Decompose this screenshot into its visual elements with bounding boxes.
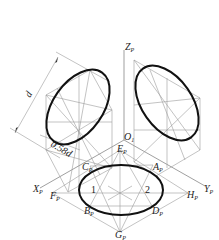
left-plane-construction: [46, 70, 112, 192]
label-e: EP: [116, 143, 127, 155]
label-f: FP: [49, 190, 60, 202]
label-z-axis: ZP: [125, 41, 135, 53]
label-dimension-d: d: [22, 88, 35, 99]
label-h: HP: [186, 189, 198, 201]
y-axis: [124, 140, 205, 186]
label-dimension-058d: 0.58d: [49, 138, 75, 159]
label-b: BP: [84, 205, 94, 217]
left-ellipse: [33, 58, 122, 155]
label-origin: O1: [124, 131, 134, 143]
label-d: DP: [151, 205, 163, 217]
right-plane-construction: [134, 60, 200, 176]
label-c: CP: [82, 161, 93, 173]
label-g: GP: [115, 229, 126, 240]
label-center-2: 2: [145, 184, 150, 195]
axes: [40, 50, 205, 188]
bottom-plane-construction: [52, 150, 188, 232]
label-x-axis: XP: [32, 183, 43, 195]
isometric-diagram: ZP XP YP O1 EP CP AP FP HP BP DP GP 1 2 …: [0, 0, 219, 240]
label-center-1: 1: [91, 184, 96, 195]
label-y-axis: YP: [204, 183, 214, 195]
label-a: AP: [152, 161, 163, 173]
